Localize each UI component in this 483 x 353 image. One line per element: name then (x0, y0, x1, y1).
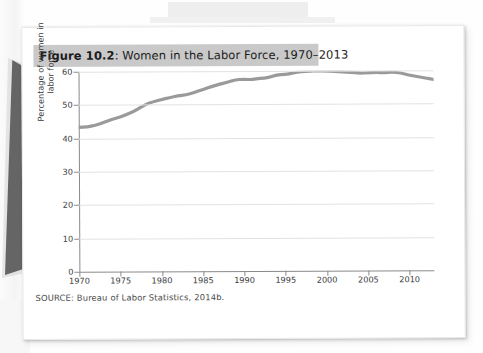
y-axis-tick-labels: 0102030405060 (49, 72, 74, 272)
figure-title-text: Women in the Labor Force, 1970–2013 (122, 48, 348, 63)
y-tick-label-10: 10 (51, 233, 73, 243)
figure-title-separator: : (115, 49, 123, 63)
x-tick-label-2000: 2000 (317, 275, 338, 285)
y-tick-mark-50 (74, 105, 79, 106)
series-path (79, 70, 434, 127)
figure-title: Figure 10.2: Women in the Labor Force, 1… (33, 48, 348, 63)
y-tick-mark-10 (74, 238, 79, 239)
figure-page: Figure 10.2: Women in the Labor Force, 1… (21, 25, 465, 340)
y-axis-title-line-1: Percentage of women in (35, 12, 46, 132)
x-tick-label-1995: 1995 (275, 275, 296, 285)
y-tick-mark-20 (74, 205, 79, 206)
chart-area: Percentage of women in labor force 01020… (23, 70, 465, 312)
y-tick-label-40: 40 (51, 133, 73, 143)
scan-artifact-top-band-2 (150, 17, 335, 23)
y-tick-label-60: 60 (50, 67, 72, 77)
y-tick-mark-40 (74, 138, 79, 139)
x-tick-label-2005: 2005 (358, 274, 379, 284)
y-tick-label-30: 30 (51, 167, 73, 177)
y-tick-label-20: 20 (51, 200, 73, 210)
x-tick-label-1985: 1985 (193, 275, 214, 285)
x-tick-label-1980: 1980 (152, 275, 173, 285)
x-tick-label-1975: 1975 (110, 275, 131, 285)
y-tick-label-50: 50 (51, 100, 73, 110)
y-tick-mark-60 (74, 72, 79, 73)
figure-source: SOURCE: Bureau of Labor Statistics, 2014… (35, 292, 224, 303)
x-tick-label-1990: 1990 (234, 275, 255, 285)
x-tick-label-2010: 2010 (399, 274, 420, 284)
y-tick-mark-30 (74, 172, 79, 173)
x-tick-label-1970: 1970 (69, 276, 90, 286)
figure-title-band: Figure 10.2: Women in the Labor Force, 1… (33, 44, 318, 67)
plot-region (79, 70, 435, 272)
